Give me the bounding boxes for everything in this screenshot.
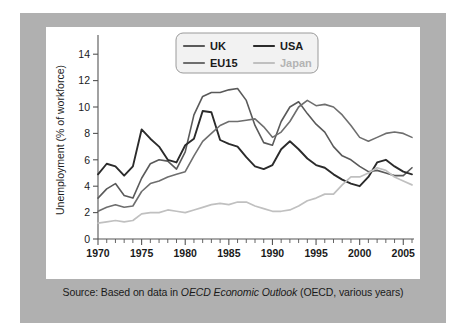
x-tick-label: 1970 xyxy=(86,247,110,259)
legend-label-uk[interactable]: UK xyxy=(210,40,226,52)
x-tick-label: 1975 xyxy=(130,247,154,259)
x-tick-label: 1980 xyxy=(174,247,198,259)
source-caption: Source: Based on data in OECD Economic O… xyxy=(20,286,446,298)
x-tick-label: 1995 xyxy=(304,247,328,259)
plot-area: 0246810121419701975198019851990199520002… xyxy=(46,27,420,279)
y-tick-label: 12 xyxy=(78,74,90,86)
series-line-japan xyxy=(98,168,412,223)
x-tick-label: 2005 xyxy=(392,247,416,259)
x-tick-label: 1990 xyxy=(261,247,285,259)
chart-panel: 0246810121419701975198019851990199520002… xyxy=(46,27,420,279)
y-tick-label: 0 xyxy=(84,233,90,245)
legend-label-japan[interactable]: Japan xyxy=(280,57,312,69)
x-tick-label: 2000 xyxy=(348,247,372,259)
series-line-eu15 xyxy=(98,100,412,211)
x-tick-label: 1985 xyxy=(217,247,241,259)
caption-suffix: (OECD, various years) xyxy=(297,286,403,298)
y-tick-label: 2 xyxy=(84,206,90,218)
y-axis-title: Unemployment (% of workforce) xyxy=(54,65,66,215)
chart-legend[interactable]: UKUSAEU15Japan xyxy=(176,33,318,73)
caption-prefix: Source: Based on data in xyxy=(62,286,180,298)
y-tick-label: 6 xyxy=(84,154,90,166)
legend-label-usa[interactable]: USA xyxy=(280,40,303,52)
y-tick-label: 4 xyxy=(84,180,90,192)
caption-title-italic: OECD Economic Outlook xyxy=(181,286,297,298)
series-lines xyxy=(98,89,412,224)
y-tick-label: 10 xyxy=(78,101,90,113)
unemployment-line-chart: 0246810121419701975198019851990199520002… xyxy=(46,27,420,279)
y-tick-label: 14 xyxy=(78,48,90,60)
legend-label-eu15[interactable]: EU15 xyxy=(210,57,238,69)
figure-frame: 0246810121419701975198019851990199520002… xyxy=(20,13,446,323)
y-tick-label: 8 xyxy=(84,127,90,139)
